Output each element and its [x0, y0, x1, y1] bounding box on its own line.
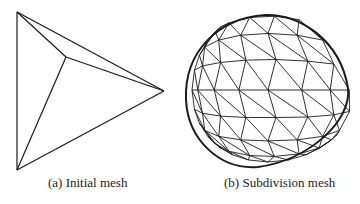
caption-subdivision-mesh: (b) Subdivision mesh	[224, 175, 335, 191]
subdivision-wireframe	[180, 0, 360, 204]
figure-subdivision-mesh: (b) Subdivision mesh	[180, 0, 360, 204]
caption-initial-mesh: (a) Initial mesh	[48, 175, 127, 191]
tetrahedron-wireframe	[0, 0, 180, 204]
figure-initial-mesh: (a) Initial mesh	[0, 0, 180, 204]
